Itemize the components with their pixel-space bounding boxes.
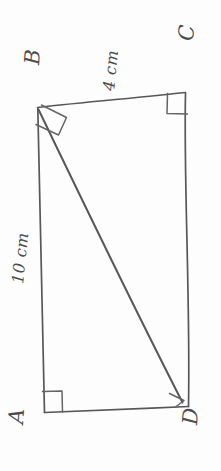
diagonal-bd — [39, 110, 183, 403]
edge-ad — [45, 407, 189, 413]
edge-ab — [38, 109, 45, 413]
geometry-figure: B C A D 10 cm 4 cm — [0, 0, 221, 471]
right-angle-mark-d — [170, 394, 185, 408]
right-angle-mark-b — [36, 105, 67, 135]
vertex-label-c: C — [176, 24, 198, 42]
edge-bc — [38, 93, 186, 108]
edge-cd — [185, 94, 189, 407]
vertex-label-d: D — [180, 407, 202, 425]
vertex-label-b: B — [22, 49, 44, 66]
measurement-label-bc: 4 cm — [101, 49, 121, 91]
vertex-label-a: A — [6, 408, 28, 425]
right-angle-mark-a — [43, 391, 63, 412]
